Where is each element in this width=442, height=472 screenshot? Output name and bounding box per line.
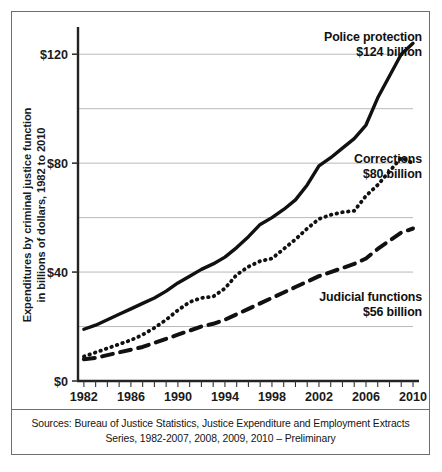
y-axis-title: Expenditures by criminal justice functio… bbox=[14, 60, 54, 370]
source-note-line2: Series, 1982-2007, 2008, 2009, 2010 – Pr… bbox=[16, 432, 425, 447]
annotation-police-value: $124 billion bbox=[324, 45, 422, 60]
annotation-judicial-functions: Judicial functions $56 billion bbox=[319, 290, 422, 320]
annotation-judicial-value: $56 billion bbox=[319, 305, 422, 320]
source-divider bbox=[12, 409, 429, 410]
x-tick-label-2002: 2002 bbox=[305, 390, 333, 404]
gridline-group bbox=[78, 54, 413, 326]
x-tick-label-1986: 1986 bbox=[117, 390, 145, 404]
annotation-judicial-name: Judicial functions bbox=[319, 290, 422, 304]
x-tick-label-1994: 1994 bbox=[211, 390, 239, 404]
source-note: Sources: Bureau of Justice Statistics, J… bbox=[16, 417, 425, 446]
y-axis-title-line1: Expenditures by criminal justice functio… bbox=[21, 108, 33, 323]
annotation-police-name: Police protection bbox=[324, 30, 422, 44]
x-tick-label-1990: 1990 bbox=[164, 390, 192, 404]
x-tick-label-1998: 1998 bbox=[258, 390, 286, 404]
x-tick-label-2010: 2010 bbox=[399, 390, 427, 404]
source-note-line1: Sources: Bureau of Justice Statistics, J… bbox=[16, 417, 425, 432]
series-line-police-protection bbox=[84, 43, 413, 329]
plot-wrapper: $0$40$80$120 198219861990199419982002200… bbox=[0, 0, 442, 472]
x-tick-label-1982: 1982 bbox=[70, 390, 98, 404]
y-tick-label-0: $0 bbox=[54, 375, 68, 389]
annotation-corrections-name: Corrections bbox=[354, 152, 422, 166]
line-chart: $0$40$80$120 198219861990199419982002200… bbox=[0, 0, 442, 472]
chart-figure: $0$40$80$120 198219861990199419982002200… bbox=[0, 0, 442, 472]
x-tick-label-group: 19821986199019941998200220062010 bbox=[70, 390, 427, 404]
annotation-corrections: Corrections $80 billion bbox=[354, 152, 422, 182]
annotation-police-protection: Police protection $124 billion bbox=[324, 30, 422, 60]
x-tick-label-2006: 2006 bbox=[352, 390, 380, 404]
x-tick-group bbox=[72, 54, 413, 387]
y-axis-title-line2: in billions of dollars, 1982 to 2010 bbox=[34, 108, 48, 323]
axis-group bbox=[77, 27, 419, 381]
annotation-corrections-value: $80 billion bbox=[354, 167, 422, 182]
